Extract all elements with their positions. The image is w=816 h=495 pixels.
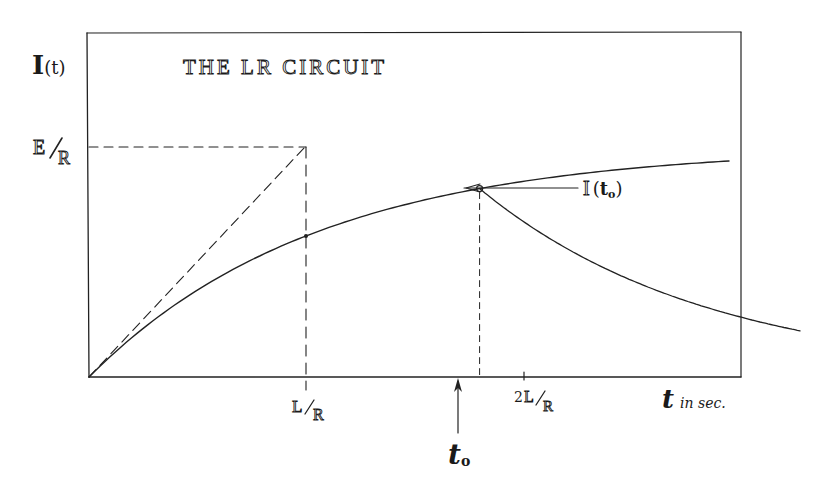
asymptote-label-den: R xyxy=(58,148,70,168)
asymptote-label: E R xyxy=(33,136,70,168)
diagram-title: THE LR CIRCUIT xyxy=(183,55,387,79)
two-tau-label-prefix: 2 xyxy=(514,389,523,405)
plot-frame xyxy=(87,32,741,377)
x-axis-label-suffix: in sec. xyxy=(680,395,726,411)
guide-lines xyxy=(89,147,480,390)
frame-top xyxy=(87,32,741,33)
tau-label-den: R xyxy=(313,406,324,423)
growth-curve xyxy=(89,161,729,377)
current-label-open: ( xyxy=(593,178,600,199)
tick-label-tau: L R xyxy=(292,397,324,423)
switch-time-label-sub: o xyxy=(461,453,470,469)
tick-label-two-tau: 2 L R xyxy=(514,388,553,414)
switch-time-arrow xyxy=(454,378,462,433)
tau-point-marker xyxy=(304,234,308,238)
current-label-sub: o xyxy=(608,188,615,201)
current-label-main: I xyxy=(583,177,590,199)
decay-curve xyxy=(480,189,800,331)
y-axis-label: I(t) xyxy=(32,50,65,80)
y-axis xyxy=(87,33,89,377)
lr-circuit-diagram: THE LR CIRCUIT I(t) E R L R 2 L R tin se… xyxy=(0,0,816,495)
switch-time-label-main: t xyxy=(448,438,461,471)
x-axis-label-main: t xyxy=(662,384,674,414)
current-label-close: ) xyxy=(615,178,622,199)
tau-label-num: L xyxy=(292,397,302,416)
asymptote-label-num: E xyxy=(33,136,45,158)
tangent-dashed-line xyxy=(89,148,304,377)
y-axis-label-main: I xyxy=(32,50,44,80)
two-tau-label-num: L xyxy=(524,388,534,405)
switch-time-label: to xyxy=(448,438,470,471)
current-at-switch-label: I(to) xyxy=(583,177,622,201)
y-axis-label-arg: (t) xyxy=(44,57,65,78)
x-axis-label: tin sec. xyxy=(662,384,726,414)
two-tau-label-den: R xyxy=(543,398,553,414)
